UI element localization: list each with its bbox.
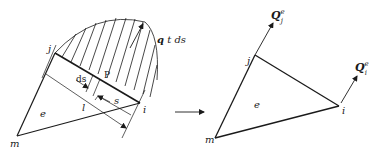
right-panel: Qej Qei j i m e — [205, 8, 369, 145]
node-m-label: m — [205, 134, 214, 145]
edge-ji — [255, 55, 339, 106]
l-label: l — [82, 102, 85, 113]
node-j-label: j — [245, 55, 250, 66]
edge-mi — [215, 106, 339, 138]
element-label: e — [40, 108, 46, 119]
node-m-label: m — [10, 138, 19, 149]
right-triangle — [215, 55, 339, 138]
element-label: e — [254, 99, 260, 110]
force-i-label: Qei — [355, 60, 369, 77]
edge-mi — [17, 103, 140, 136]
left-panel: q t ds j i m e — [10, 18, 186, 149]
dimension-lines — [42, 45, 145, 138]
diagram-canvas: q t ds j i m e — [0, 0, 380, 158]
edge-jm — [17, 53, 55, 136]
distributed-load-hatching — [55, 18, 158, 97]
s-arrow — [98, 96, 110, 102]
edge-jm — [215, 55, 255, 138]
force-j-arrow — [255, 23, 273, 55]
force-i-arrow — [341, 76, 357, 103]
force-j-label: Qej — [271, 8, 285, 25]
s-label: s — [114, 95, 119, 106]
load-label: q t ds — [157, 34, 186, 45]
node-i-label: i — [342, 105, 345, 116]
node-i-label: i — [143, 104, 146, 115]
ds-label: ds — [76, 74, 87, 84]
point-p-label: P — [104, 70, 110, 80]
node-j-label: j — [46, 43, 51, 54]
left-triangle — [17, 53, 140, 136]
